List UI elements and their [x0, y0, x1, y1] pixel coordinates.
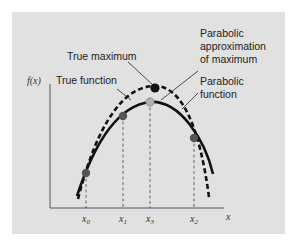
- point-x2: [190, 134, 198, 142]
- guide-lines: [86, 102, 194, 208]
- point-x1: [119, 112, 127, 120]
- point-x0: [82, 169, 90, 177]
- true-function-curve: [77, 102, 213, 196]
- true-maximum-label: True maximum: [67, 50, 137, 62]
- x-tick-labels: x0 x1 x3 x2: [81, 213, 198, 226]
- true-function-label: True function: [56, 74, 117, 86]
- parabolic-function-label-2: function: [200, 88, 237, 100]
- tick-x1: x1: [118, 213, 127, 226]
- x-axis-label: x: [225, 211, 231, 222]
- point-true-maximum: [150, 83, 159, 92]
- point-x3-estimated-max: [146, 98, 154, 106]
- parabolic-function-label-1: Parabolic: [200, 75, 244, 87]
- parabolic-interpolation-diagram: True maximum True function Parabolic app…: [0, 0, 300, 247]
- parabolic-approx-label-3: of maximum: [200, 53, 257, 65]
- tick-x2: x2: [189, 213, 198, 226]
- parabolic-approx-label-1: Parabolic: [200, 27, 244, 39]
- y-axis-label: f(x): [27, 75, 42, 87]
- parabolic-approx-label-2: approximation: [200, 40, 266, 52]
- tick-x3: x3: [145, 213, 154, 226]
- tick-x0: x0: [81, 213, 90, 226]
